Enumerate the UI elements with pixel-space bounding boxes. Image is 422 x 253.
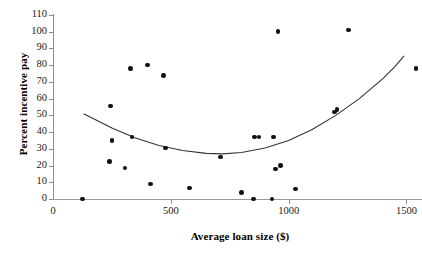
data-point [239,190,244,195]
data-point [163,146,168,151]
data-point [80,197,85,202]
data-point [271,135,276,140]
scatter-chart: Percent incentive pay Average loan size … [0,0,422,253]
data-point [218,155,223,160]
data-point [251,197,256,202]
data-point [110,138,115,143]
data-point [278,163,283,168]
data-point [273,167,278,172]
data-point [161,73,166,78]
data-point [335,107,340,112]
data-point [414,66,419,71]
plot-area [0,0,422,253]
data-point [107,159,112,164]
data-point [128,66,133,71]
data-point [145,63,150,68]
